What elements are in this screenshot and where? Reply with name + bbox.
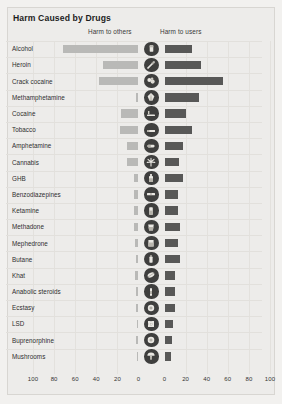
bar-harm-to-users [165, 336, 172, 344]
buprenorphine-tablet-icon [144, 333, 158, 347]
cocaine-powder-icon [144, 106, 158, 120]
row-separator [6, 41, 262, 42]
beer-glass-icon [144, 42, 158, 56]
category-label: Heroin [12, 61, 31, 68]
chart-row: LSD [0, 316, 268, 332]
category-label: Mephedrone [12, 240, 48, 247]
butane-canister-icon [144, 252, 158, 266]
chart-row: Methadone [0, 219, 268, 235]
bar-harm-to-users [165, 126, 192, 134]
ecstasy-tablet-icon [144, 301, 158, 315]
chart-row: Amphetamine [0, 138, 268, 154]
chart-row: Heroin [0, 57, 268, 73]
bar-harm-to-users [165, 142, 184, 150]
row-separator [6, 219, 262, 220]
chart-row: Methamphetamine [0, 90, 268, 106]
row-separator [6, 300, 262, 301]
chart-x-axis: 100806040200020406080100 [0, 376, 268, 388]
bar-harm-to-others [63, 45, 139, 53]
steroid-ampoule-icon [144, 284, 158, 298]
bar-harm-to-users [165, 239, 179, 247]
row-separator [6, 57, 262, 58]
row-separator [6, 235, 262, 236]
category-label: Mushrooms [12, 353, 45, 360]
lsd-blotter-icon [144, 317, 158, 331]
bar-harm-to-others [136, 255, 138, 263]
row-separator [6, 154, 262, 155]
axis-tick-right: 20 [182, 376, 189, 382]
bar-harm-to-others [134, 174, 138, 182]
chart-row: Khat [0, 268, 268, 284]
bar-harm-to-others [127, 142, 139, 150]
bar-harm-to-others [135, 271, 138, 279]
category-label: Khat [12, 272, 25, 279]
category-label: LSD [12, 320, 24, 327]
chart-row: Cannabis [0, 154, 268, 170]
chart-row: GHB [0, 171, 268, 187]
category-label: Buprenorphine [12, 337, 54, 344]
chart-row: Ecstasy [0, 300, 268, 316]
axis-tick-right: 100 [265, 376, 275, 382]
category-label: Cannabis [12, 159, 39, 166]
chart-row: Anabolic steroids [0, 284, 268, 300]
bar-harm-to-others [136, 336, 138, 344]
bar-harm-to-users [165, 223, 181, 231]
axis-tick-left: 80 [51, 376, 58, 382]
row-separator [6, 138, 262, 139]
bar-harm-to-others [134, 206, 138, 214]
bar-harm-to-others [136, 287, 138, 295]
chart-row: Butane [0, 251, 268, 267]
bar-harm-to-users [165, 271, 176, 279]
bar-harm-to-users [165, 158, 180, 166]
bar-harm-to-others [103, 61, 139, 69]
bar-harm-to-users [165, 255, 181, 263]
axis-tick-left: 0 [137, 376, 140, 382]
cannabis-leaf-icon [144, 155, 158, 169]
ghb-bottle-icon [144, 171, 158, 185]
axis-tick-left: 100 [28, 376, 38, 382]
category-label: Amphetamine [12, 142, 51, 149]
row-separator [6, 171, 262, 172]
meth-crystal-icon [144, 90, 158, 104]
row-separator [6, 316, 262, 317]
axis-tick-right: 80 [245, 376, 252, 382]
row-separator [6, 203, 262, 204]
row-separator [6, 122, 262, 123]
category-label: GHB [12, 175, 26, 182]
row-separator [6, 268, 262, 269]
page-title: Harm Caused by Drugs [13, 13, 111, 23]
legend-harm-to-others: Harm to others [88, 28, 132, 35]
bar-harm-to-others [127, 158, 139, 166]
row-separator [6, 73, 262, 74]
ketamine-vial-icon [144, 203, 158, 217]
bar-harm-to-users [165, 61, 202, 69]
row-separator [6, 187, 262, 188]
chart-row: Mephedrone [0, 235, 268, 251]
category-label: Ketamine [12, 207, 39, 214]
bar-harm-to-users [165, 352, 171, 360]
bar-harm-to-users [165, 206, 179, 214]
gridline [270, 41, 271, 374]
bar-harm-to-others [120, 126, 139, 134]
bar-harm-to-users [165, 304, 176, 312]
amphetamine-pill-icon [144, 139, 158, 153]
cigarette-icon [144, 123, 158, 137]
khat-leaf-icon [144, 268, 158, 282]
bar-harm-to-users [165, 320, 173, 328]
axis-tick-right: 60 [224, 376, 231, 382]
chart-row: Crack cocaine [0, 73, 268, 89]
mephedrone-bag-icon [144, 236, 158, 250]
chart-row: Buprenorphine [0, 332, 268, 348]
chart-row: Alcohol [0, 41, 268, 57]
chart-row: Tobacco [0, 122, 268, 138]
bar-harm-to-users [165, 287, 176, 295]
category-label: Butane [12, 256, 32, 263]
bar-harm-to-users [165, 190, 179, 198]
row-separator [6, 251, 262, 252]
bar-harm-to-others [136, 93, 138, 101]
row-separator [6, 90, 262, 91]
benzodiazepine-pill-icon [144, 187, 158, 201]
row-separator [6, 332, 262, 333]
axis-tick-left: 60 [72, 376, 79, 382]
chart-row: Ketamine [0, 203, 268, 219]
